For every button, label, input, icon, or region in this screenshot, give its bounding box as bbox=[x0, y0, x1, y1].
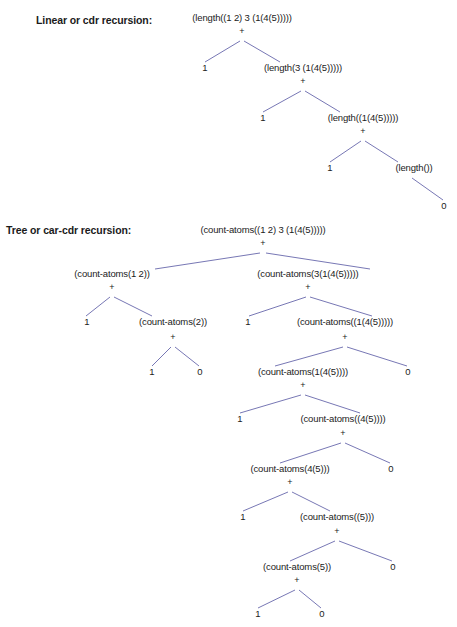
linear-root: (length((1 2) 3 (1(4(5))))) bbox=[192, 12, 291, 23]
tree-l5-b: 0 bbox=[388, 463, 393, 474]
tree-l2-d-plus: + bbox=[342, 332, 347, 342]
tree-l4-b-plus: + bbox=[340, 428, 345, 438]
tree-edge-l5a-right bbox=[292, 492, 330, 511]
linear-l3-right: (length()) bbox=[395, 162, 432, 173]
linear-l1-right: (length(3 (1(4(5))))) bbox=[264, 62, 342, 73]
section-label-linear: Linear or cdr recursion: bbox=[36, 14, 152, 26]
tree-l1-right-plus: + bbox=[305, 282, 310, 292]
section-label-tree: Tree or car-cdr recursion: bbox=[6, 224, 131, 236]
linear-root-plus: + bbox=[239, 26, 244, 36]
tree-l6-b-plus: + bbox=[334, 526, 339, 536]
section-labels: Linear or cdr recursion: Tree or car-cdr… bbox=[6, 14, 152, 236]
tree-l5-a: (count-atoms(4(5))) bbox=[251, 463, 330, 474]
tree-edge-root-left bbox=[155, 253, 260, 269]
tree-edge-l7a-right bbox=[299, 590, 321, 608]
tree-l6-b: (count-atoms((5))) bbox=[300, 511, 374, 522]
tree-l1-right: (count-atoms(3(1(4(5))))) bbox=[257, 268, 358, 279]
tree-l6-a: 1 bbox=[240, 511, 245, 522]
linear-l2-left: 1 bbox=[260, 112, 265, 123]
linear-edge-l1-left bbox=[263, 91, 301, 112]
tree-edge-l5a-left bbox=[243, 492, 288, 511]
linear-tree-nodes: (length((1 2) 3 (1(4(5)))))+1(length(3 (… bbox=[192, 12, 446, 211]
linear-l1-plus: + bbox=[300, 76, 305, 86]
tree-edge-l1r-left bbox=[249, 297, 306, 316]
tree-l4-b: (count-atoms((4(5)))) bbox=[301, 413, 386, 424]
tree-l3-c: (count-atoms(1(4(5)))) bbox=[258, 366, 348, 377]
tree-edge-l7a-left bbox=[258, 590, 295, 608]
tree-l3-b: 0 bbox=[197, 366, 202, 377]
linear-l2-right: (length((1(4(5))))) bbox=[328, 112, 399, 123]
tree-edge-l2d-left bbox=[275, 347, 343, 366]
tree-edge-l2d-right bbox=[347, 347, 407, 366]
linear-l1-left: 1 bbox=[202, 62, 207, 73]
tree-edge-l4b-left bbox=[280, 443, 341, 463]
tree-edge-l6b-right bbox=[339, 541, 392, 561]
tree-canvas: Linear or cdr recursion: Tree or car-cdr… bbox=[0, 0, 457, 627]
tree-l7-a: (count-atoms(5)) bbox=[263, 561, 331, 572]
tree-l3-c-plus: + bbox=[300, 380, 305, 390]
tree-l8-a: 1 bbox=[255, 608, 260, 619]
tree-edge-l1l-left bbox=[86, 297, 110, 316]
tree-l1-left: (count-atoms(1 2)) bbox=[74, 268, 149, 279]
linear-l4-right: 0 bbox=[441, 200, 446, 211]
tree-edge-l2b-left bbox=[152, 347, 171, 366]
linear-edge-l3-right bbox=[412, 178, 443, 200]
tree-edge-l3c-right bbox=[305, 395, 360, 413]
tree-edge-l4b-right bbox=[345, 443, 390, 463]
tree-edge-l1l-right bbox=[114, 297, 152, 316]
linear-edge-l1-right bbox=[305, 91, 340, 112]
tree-edge-l2b-right bbox=[175, 347, 199, 366]
tree-l7-b: 0 bbox=[390, 561, 395, 572]
linear-edge-root-right bbox=[244, 41, 280, 62]
tree-root: (count-atoms((1 2) 3 (1(4(5))))) bbox=[200, 224, 325, 235]
tree-edge-l1r-right bbox=[310, 297, 372, 316]
tree-edge-root-right bbox=[266, 253, 370, 269]
tree-l3-d: 0 bbox=[405, 366, 410, 377]
tree-l2-b: (count-atoms(2)) bbox=[139, 316, 207, 327]
linear-edge-l2-left bbox=[330, 141, 361, 162]
tree-edge-l3c-left bbox=[240, 395, 301, 413]
tree-l2-d: (count-atoms((1(4(5))))) bbox=[297, 316, 393, 327]
tree-l7-a-plus: + bbox=[294, 575, 299, 585]
linear-l3-left: 1 bbox=[327, 162, 332, 173]
tree-l2-b-plus: + bbox=[170, 332, 175, 342]
recursion-diagram: Linear or cdr recursion: Tree or car-cdr… bbox=[0, 0, 457, 627]
tree-l2-a: 1 bbox=[84, 316, 89, 327]
tree-root-plus: + bbox=[260, 238, 265, 248]
tree-l8-b: 0 bbox=[319, 608, 324, 619]
tree-edge-l6b-left bbox=[290, 541, 335, 561]
tree-l3-a: 1 bbox=[149, 366, 154, 377]
linear-l2-plus: + bbox=[360, 126, 365, 136]
tree-tree-nodes: (count-atoms((1 2) 3 (1(4(5)))))+(count-… bbox=[74, 224, 410, 619]
tree-l5-a-plus: + bbox=[287, 477, 292, 487]
linear-edge-root-left bbox=[205, 41, 240, 62]
linear-edge-l2-right bbox=[365, 141, 398, 162]
tree-l2-c: 1 bbox=[245, 316, 250, 327]
tree-l1-left-plus: + bbox=[109, 282, 114, 292]
tree-l4-a: 1 bbox=[237, 413, 242, 424]
tree-tree-edges bbox=[86, 253, 407, 608]
